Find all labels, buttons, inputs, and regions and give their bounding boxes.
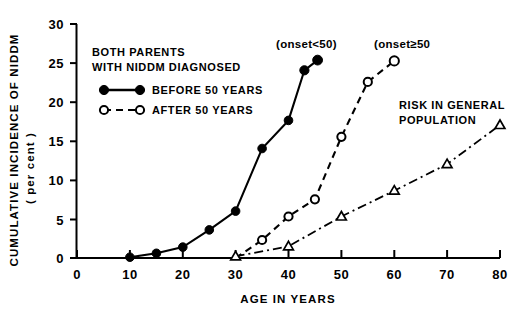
x-tick-label-80: 80 bbox=[492, 267, 507, 282]
y-tick-label-5: 5 bbox=[56, 213, 64, 228]
legend-label-after-50: AFTER 50 YEARS bbox=[152, 104, 253, 116]
x-tick-label-20: 20 bbox=[175, 267, 190, 282]
data-point-filled-circle bbox=[231, 207, 240, 216]
data-point-open-circle bbox=[311, 195, 319, 203]
y-axis-title-line2: ( per cent ) bbox=[24, 132, 36, 204]
y-tick-label-20: 20 bbox=[49, 95, 64, 110]
x-tick-label-40: 40 bbox=[281, 267, 296, 282]
niddm-cumulative-incidence-chart: 30 25 20 15 10 5 0 0 10 20 30 40 50 bbox=[0, 0, 523, 316]
legend-marker-filled-circle-left bbox=[99, 85, 108, 94]
y-axis-title-line1: CUMULATIVE INCIDENCE OF NIDDM bbox=[8, 34, 20, 267]
data-point-open-circle bbox=[284, 212, 292, 220]
x-tick-label-70: 70 bbox=[439, 267, 454, 282]
x-tick-label-0: 0 bbox=[73, 267, 81, 282]
data-point-open-circle bbox=[337, 133, 345, 141]
legend-heading-line2: WITH NIDDM DIAGNOSED bbox=[92, 61, 241, 73]
y-tick-label-30: 30 bbox=[49, 17, 64, 32]
x-tick-label-60: 60 bbox=[387, 267, 402, 282]
y-tick-label-15: 15 bbox=[49, 134, 64, 149]
data-point-filled-circle bbox=[205, 226, 214, 235]
data-point-filled-circle bbox=[258, 144, 267, 153]
x-tick-label-30: 30 bbox=[228, 267, 243, 282]
y-tick-label-25: 25 bbox=[49, 56, 64, 71]
x-tick-label-50: 50 bbox=[334, 267, 349, 282]
annotation-general-population-line1: RISK IN GENERAL bbox=[399, 99, 505, 111]
y-tick-label-0: 0 bbox=[56, 251, 64, 266]
legend-heading-line1: BOTH PARENTS bbox=[92, 46, 185, 58]
annotation-onset-ge-50: (onset≥50 bbox=[374, 38, 430, 50]
data-point-filled-circle bbox=[179, 243, 188, 252]
x-tick-label-10: 10 bbox=[122, 267, 137, 282]
data-point-filled-circle bbox=[126, 253, 135, 262]
data-point-filled-circle bbox=[300, 66, 309, 75]
data-point-open-circle bbox=[390, 56, 399, 65]
data-point-filled-circle bbox=[313, 55, 323, 65]
annotation-general-population-line2: POPULATION bbox=[399, 114, 476, 126]
y-tick-label-10: 10 bbox=[49, 173, 64, 188]
data-point-open-circle bbox=[364, 78, 372, 86]
chart-figure: 30 25 20 15 10 5 0 0 10 20 30 40 50 bbox=[0, 0, 523, 316]
legend-label-before-50: BEFORE 50 YEARS bbox=[152, 84, 263, 96]
legend-marker-open-circle-left bbox=[100, 106, 108, 114]
legend-marker-filled-circle-right bbox=[135, 85, 144, 94]
data-point-open-circle bbox=[258, 236, 266, 244]
data-point-filled-circle bbox=[284, 116, 293, 125]
x-axis-title: AGE IN YEARS bbox=[240, 293, 335, 305]
data-point-filled-circle bbox=[152, 249, 161, 258]
annotation-onset-lt-50: (onset<50) bbox=[276, 38, 337, 50]
legend-marker-open-circle-right bbox=[136, 106, 144, 114]
